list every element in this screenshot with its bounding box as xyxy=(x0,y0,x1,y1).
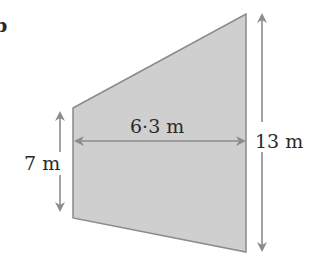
width-label: 6·3 m xyxy=(130,115,184,137)
right-side-label: 13 m xyxy=(255,130,303,152)
left-side-label: 7 m xyxy=(24,152,60,174)
trapezium-diagram: b 7 m 6·3 m 13 m xyxy=(0,0,318,264)
part-label: b xyxy=(0,14,7,36)
